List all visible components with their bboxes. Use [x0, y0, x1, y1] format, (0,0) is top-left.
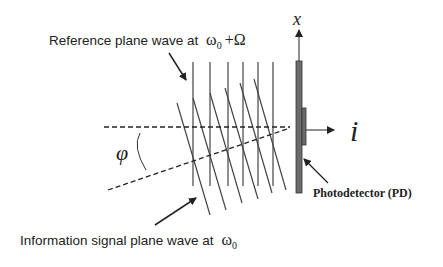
photodetector-pointer-arrow — [304, 159, 328, 183]
photodetector-label: Photodetector (PD) — [313, 186, 412, 200]
reference-pointer-arrow — [169, 53, 186, 80]
information-label: Information signal plane wave at ω0 — [20, 231, 237, 251]
information-pointer-arrow — [155, 198, 196, 225]
current-label: i — [350, 114, 358, 147]
angle-symbol: φ — [116, 140, 128, 165]
photodetector-contact — [302, 108, 306, 145]
heterodyne-detection-diagram: Reference plane wave at ω0+Ω Information… — [0, 0, 443, 267]
reference-wavefronts — [193, 62, 273, 186]
angle-arc — [137, 133, 146, 170]
x-axis-label: x — [292, 9, 301, 29]
reference-label: Reference plane wave at ω0+Ω — [49, 31, 246, 51]
photodetector-bar — [296, 61, 302, 193]
